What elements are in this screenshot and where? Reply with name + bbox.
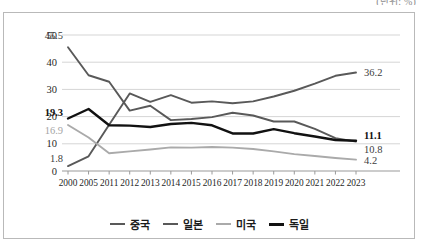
legend-label: 미국 [236,216,256,232]
x-axis-tick-label: 2022 [326,178,345,188]
unit-caption: (단위: %) [376,0,416,5]
end-value-label-미국: 4.2 [364,155,377,166]
end-value-label-독일: 11.1 [364,130,382,141]
legend-swatch-icon [216,223,231,225]
legend-label: 독일 [289,216,309,232]
start-value-label-독일: 19.3 [45,107,63,118]
x-axis-tick-label: 2023 [347,178,366,188]
y-axis-tick-label: 10 [47,138,58,149]
end-value-label-중국: 36.2 [364,67,382,78]
chart-legend: 중국일본미국독일 [4,216,414,232]
start-value-label-일본: 45.5 [45,30,63,41]
legend-swatch-icon [269,223,284,226]
end-value-label-일본: 10.8 [364,144,382,155]
x-axis-tick-label: 2016 [203,178,222,188]
x-axis-tick-label: 2013 [141,178,160,188]
x-axis-tick-label: 2019 [264,178,283,188]
x-axis-tick-label: 2021 [305,178,324,188]
x-axis-tick-label: 2000 [59,178,78,188]
legend-item-일본[interactable]: 일본 [163,216,203,232]
x-axis-tick-label: 2018 [244,178,263,188]
y-axis-tick-label: 40 [47,57,58,68]
x-axis-tick-label: 2005 [79,178,98,188]
y-axis-tick-label: 30 [47,84,58,95]
series-line-미국 [68,125,356,160]
x-axis-tick-label: 2015 [182,178,201,188]
start-value-label-중국: 1.8 [50,153,63,164]
series-line-중국 [68,73,356,167]
legend-item-중국[interactable]: 중국 [110,216,150,232]
legend-label: 중국 [130,216,150,232]
y-axis-tick-label: 0 [52,166,57,177]
legend-swatch-icon [110,223,125,225]
x-axis-tick-label: 2014 [161,178,180,188]
x-axis-tick-label: 2020 [285,178,304,188]
x-axis-tick-label: 2017 [223,178,242,188]
series-line-일본 [68,47,356,141]
start-value-label-미국: 16.9 [45,125,63,136]
x-axis-tick-label: 2012 [120,178,139,188]
chart-screenshot: (단위: %) 01020304050200020052011201220132… [0,0,425,250]
legend-swatch-icon [163,223,178,225]
series-line-독일 [68,109,356,141]
x-axis-tick-label: 2011 [100,178,119,188]
legend-label: 일본 [183,216,203,232]
chart-panel: 0102030405020002005201120122013201420152… [3,12,415,239]
line-chart-plot: 0102030405020002005201120122013201420152… [4,13,416,240]
legend-item-독일[interactable]: 독일 [269,216,309,232]
legend-item-미국[interactable]: 미국 [216,216,256,232]
